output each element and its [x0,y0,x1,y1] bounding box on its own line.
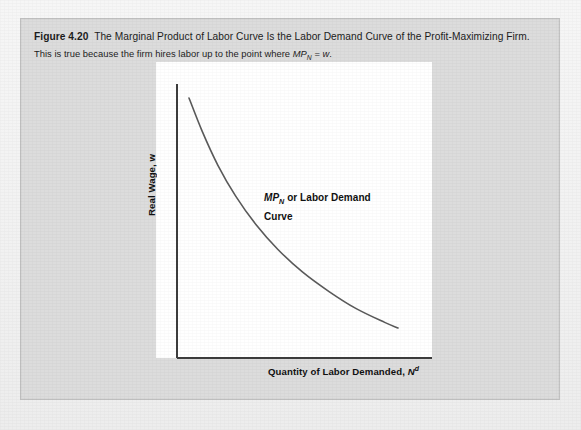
caption-title-line: Figure 4.20 The Marginal Product of Labo… [34,30,546,44]
x-axis-label-var-base: N [408,366,415,377]
annotation-math-mpn: MPN [264,192,284,203]
figure-caption: Figure 4.20 The Marginal Product of Labo… [34,30,546,65]
x-axis-label: Quantity of Labor Demanded, Nd [268,365,419,377]
annotation-text-rest: or Labor Demand [284,192,370,203]
figure-title: The Marginal Product of Labor Curve Is t… [94,31,530,42]
curve-annotation: MPN or Labor Demand Curve [264,190,390,224]
x-axis-label-text: Quantity of Labor Demanded, [268,366,408,377]
y-axis-label-text: Real Wage, w [146,154,157,216]
subtitle-text-pre: This is true because the firm hires labo… [34,48,293,59]
annotation-math-base: MP [264,192,279,203]
figure-number: Figure 4.20 [34,31,88,42]
annotation-text-line2: Curve [264,211,293,222]
x-axis-label-variable: Nd [408,366,419,377]
subtitle-math-mpn: MPN [293,48,312,59]
x-axis-label-var-superscript: d [415,365,419,372]
subtitle-math-base: MP [293,48,307,59]
subtitle-text-post: . [329,48,332,59]
subtitle-math-relation: = [312,48,323,59]
y-axis-label: Real Wage, w [146,96,158,216]
